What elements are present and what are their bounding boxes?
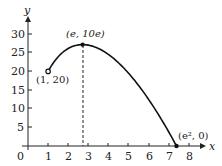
label-point-1-20: (1, 20) <box>36 74 69 85</box>
x-tick-labels: 1 2 3 4 5 6 7 8 <box>45 150 193 163</box>
point-e-10e <box>80 42 84 46</box>
label-point-e-10e: (e, 10e) <box>66 28 105 39</box>
svg-text:1: 1 <box>45 150 52 163</box>
origin-label: 0 <box>17 150 24 163</box>
point-1-20 <box>46 69 50 73</box>
svg-text:15: 15 <box>11 84 25 97</box>
svg-text:10: 10 <box>11 102 25 115</box>
svg-text:20: 20 <box>11 65 25 78</box>
svg-text:4: 4 <box>105 150 112 163</box>
svg-text:8: 8 <box>186 150 193 163</box>
svg-text:2: 2 <box>65 150 72 163</box>
y-ticks <box>28 34 32 127</box>
x-axis-label: x <box>209 140 216 153</box>
svg-text:30: 30 <box>11 28 25 41</box>
y-axis-label: y <box>23 4 31 17</box>
svg-text:7: 7 <box>166 150 173 163</box>
svg-text:5: 5 <box>17 121 24 134</box>
point-e2-0 <box>174 144 178 148</box>
curve <box>48 45 176 146</box>
chart: x y 0 1 2 3 4 5 6 7 8 5 10 15 20 25 30 <box>0 0 222 166</box>
svg-text:5: 5 <box>125 150 132 163</box>
svg-text:3: 3 <box>85 150 92 163</box>
x-axis-arrow-icon <box>200 143 206 149</box>
label-point-e2-0: (e², 0) <box>178 130 209 141</box>
y-tick-labels: 5 10 15 20 25 30 <box>11 28 25 134</box>
svg-text:6: 6 <box>146 150 153 163</box>
svg-text:25: 25 <box>11 46 25 59</box>
